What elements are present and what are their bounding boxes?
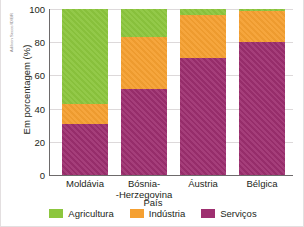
x-axis-label: País bbox=[1, 197, 304, 208]
legend-label-servicos: Serviços bbox=[220, 208, 256, 219]
y-tick-label-100: 100 bbox=[29, 4, 45, 15]
bar-segment-agricultura bbox=[62, 9, 108, 104]
chart-legend: Agricultura Indústria Serviços bbox=[1, 208, 304, 219]
bar-segment-industria bbox=[62, 104, 108, 124]
legend-swatch-industria bbox=[130, 209, 144, 218]
y-tick-label-80: 80 bbox=[34, 37, 45, 48]
legend-item-agricultura: Agricultura bbox=[49, 208, 113, 219]
legend-label-agricultura: Agricultura bbox=[68, 208, 113, 219]
bar-segment-servicos bbox=[121, 89, 167, 175]
bar-belgica bbox=[239, 9, 285, 175]
legend-item-industria: Indústria bbox=[130, 208, 185, 219]
bar-bosnia-herzegovina bbox=[121, 9, 167, 175]
legend-swatch-servicos bbox=[201, 209, 215, 218]
bar-segment-agricultura bbox=[121, 9, 167, 37]
x-tick-line-1: Bélgica bbox=[219, 179, 304, 190]
y-tick-label-40: 40 bbox=[34, 103, 45, 114]
bar-segment-servicos bbox=[62, 124, 108, 176]
gridline-0: 0 bbox=[50, 175, 293, 176]
bar-moldavia bbox=[62, 9, 108, 175]
illustrator-credit: Adilson Secco/ID/BR bbox=[9, 4, 14, 62]
y-tick-label-60: 60 bbox=[34, 70, 45, 81]
y-axis-line bbox=[49, 9, 50, 176]
bar-segment-industria bbox=[239, 11, 285, 43]
bar-segment-industria bbox=[121, 37, 167, 89]
bar-segment-industria bbox=[180, 15, 226, 58]
bar-austria bbox=[180, 9, 226, 175]
y-tick-label-20: 20 bbox=[34, 136, 45, 147]
plot-canvas: 100 80 60 40 20 0 bbox=[49, 9, 293, 175]
chart-figure: Adilson Secco/ID/BR Em porcentagem (%) 1… bbox=[0, 0, 304, 227]
x-tick-label-belgica: Bélgica bbox=[219, 179, 304, 190]
plot-area: 100 80 60 40 20 0 bbox=[49, 9, 293, 184]
y-axis-label: Em porcentagem (%) bbox=[21, 15, 32, 165]
cropped-title-strip bbox=[1, 0, 304, 5]
bar-segment-agricultura bbox=[239, 9, 285, 11]
legend-label-industria: Indústria bbox=[149, 208, 185, 219]
bar-segment-agricultura bbox=[180, 9, 226, 15]
bar-segment-servicos bbox=[180, 58, 226, 175]
legend-item-servicos: Serviços bbox=[201, 208, 256, 219]
legend-swatch-agricultura bbox=[49, 209, 63, 218]
bar-segment-servicos bbox=[239, 42, 285, 175]
